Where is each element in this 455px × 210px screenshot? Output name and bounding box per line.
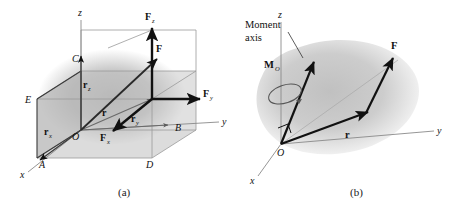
svg-text:y: y	[135, 119, 139, 126]
annotation-moment-axis-line2: axis	[245, 32, 262, 43]
svg-text:M: M	[264, 59, 274, 70]
vector-label-Fy: F y	[203, 88, 213, 101]
vector-label-F-a: F	[156, 43, 162, 54]
vector-label-r-b: r	[345, 129, 350, 140]
annotation-moment-axis-line1: Moment	[245, 19, 281, 30]
axis-label-x-b: x	[249, 175, 255, 186]
figure-root: z y x O A B C D E F F z F y F x r	[0, 0, 455, 210]
point-label-D: D	[145, 159, 154, 170]
panel-b: Moment axis M O F r z y x O	[245, 9, 442, 186]
svg-text:z: z	[151, 17, 155, 24]
point-label-O-a: O	[72, 131, 79, 142]
caption-b: (b)	[350, 186, 363, 198]
vector-label-r-a: r	[102, 107, 107, 118]
axis-label-y-a: y	[221, 116, 227, 127]
svg-text:O: O	[275, 65, 280, 72]
svg-text:F: F	[203, 88, 209, 99]
point-label-E: E	[24, 94, 31, 105]
svg-text:F: F	[100, 132, 106, 143]
svg-text:y: y	[209, 94, 213, 101]
svg-text:x: x	[106, 138, 110, 145]
axis-label-z-b: z	[277, 9, 282, 20]
origin-label-b: O	[277, 147, 284, 158]
axis-label-z-a: z	[77, 7, 82, 18]
figure-canvas: z y x O A B C D E F F z F y F x r	[0, 0, 455, 210]
axis-label-y-b: y	[436, 125, 442, 136]
axis-label-x-a: x	[19, 169, 25, 180]
point-label-A: A	[38, 159, 46, 170]
point-label-C: C	[72, 53, 79, 64]
svg-text:z: z	[87, 85, 91, 92]
point-label-B: B	[175, 122, 181, 133]
panel-a: z y x O A B C D E F F z F y F x r	[19, 7, 227, 180]
caption-a: (a)	[118, 186, 130, 198]
svg-text:F: F	[145, 11, 151, 22]
vector-label-F-b: F	[391, 40, 397, 51]
svg-text:x: x	[48, 132, 52, 139]
vector-label-Fz: F z	[145, 11, 155, 24]
